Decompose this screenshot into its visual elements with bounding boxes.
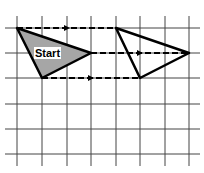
translation-diagram — [0, 0, 204, 173]
start-label: Start — [34, 47, 61, 59]
